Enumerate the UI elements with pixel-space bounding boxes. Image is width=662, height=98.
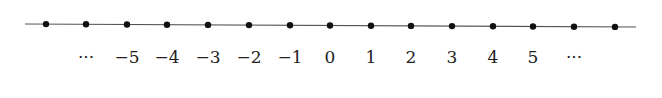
- point-dot: [368, 23, 374, 29]
- tick-label: −1: [277, 47, 302, 67]
- ellipsis-label: ···: [78, 47, 94, 67]
- tick-label: 0: [325, 47, 336, 67]
- point-dot: [490, 23, 496, 29]
- integer-points: [43, 21, 618, 30]
- point-dot: [571, 24, 577, 30]
- tick-label: −3: [195, 47, 220, 67]
- tick-label: 5: [528, 47, 539, 67]
- ellipsis-label: ···: [566, 47, 582, 67]
- point-dot: [246, 22, 252, 28]
- tick-label: −4: [154, 47, 179, 67]
- point-dot: [164, 22, 170, 28]
- point-dot: [612, 24, 618, 30]
- tick-label: 3: [447, 47, 458, 67]
- point-dot: [530, 23, 536, 29]
- tick-label: −5: [114, 47, 139, 67]
- point-dot: [83, 21, 89, 27]
- point-dot: [205, 22, 211, 28]
- point-dot: [124, 21, 130, 27]
- integer-labels: ···−5−4−3−2−1012345···: [78, 47, 582, 67]
- point-dot: [449, 23, 455, 29]
- tick-label: 2: [406, 47, 417, 67]
- number-line-diagram: ···−5−4−3−2−1012345···: [0, 0, 662, 98]
- tick-label: −2: [236, 47, 261, 67]
- point-dot: [327, 22, 333, 28]
- tick-label: 1: [366, 47, 377, 67]
- point-dot: [287, 22, 293, 28]
- point-dot: [43, 21, 49, 27]
- tick-label: 4: [488, 47, 499, 67]
- point-dot: [408, 23, 414, 29]
